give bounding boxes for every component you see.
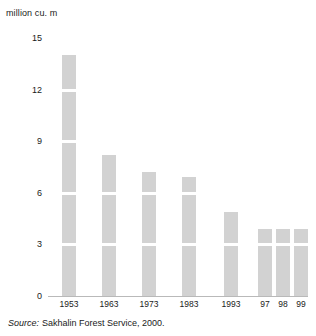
x-tick-label: 1963 bbox=[100, 299, 119, 309]
bar-series bbox=[48, 38, 308, 296]
y-tick-label: 12 bbox=[2, 86, 42, 95]
source-note: Source:Sakhalin Forest Service, 2000. bbox=[8, 318, 165, 329]
bar bbox=[258, 229, 272, 296]
source-label: Source: bbox=[8, 318, 39, 328]
x-axis-tick-labels: 19531963197319831993979899 bbox=[48, 299, 308, 315]
x-tick-label: 98 bbox=[278, 299, 287, 309]
x-tick-label: 1983 bbox=[180, 299, 199, 309]
bar bbox=[142, 172, 156, 296]
y-tick-label: 9 bbox=[2, 137, 42, 146]
x-tick-label: 1973 bbox=[140, 299, 159, 309]
y-axis-unit-caption: million cu. m bbox=[6, 8, 57, 18]
y-tick-label: 6 bbox=[2, 189, 42, 198]
x-tick-label: 99 bbox=[296, 299, 305, 309]
x-tick-label: 1993 bbox=[222, 299, 241, 309]
y-axis-tick-labels: 03691215 bbox=[0, 38, 42, 296]
y-tick-label: 3 bbox=[2, 240, 42, 249]
bar bbox=[276, 229, 290, 296]
y-tick-label: 15 bbox=[2, 34, 42, 43]
source-text: Sakhalin Forest Service, 2000. bbox=[42, 318, 165, 328]
bar bbox=[294, 229, 308, 296]
x-tick-label: 97 bbox=[260, 299, 269, 309]
x-tick-label: 1953 bbox=[60, 299, 79, 309]
y-tick-label: 0 bbox=[2, 292, 42, 301]
bar bbox=[224, 212, 238, 296]
bar bbox=[62, 55, 76, 296]
x-axis-baseline bbox=[48, 296, 308, 297]
bar bbox=[182, 177, 196, 296]
bar-chart-figure: million cu. m 03691215 19531963197319831… bbox=[0, 0, 316, 336]
bar bbox=[102, 155, 116, 296]
plot-area bbox=[48, 38, 308, 296]
